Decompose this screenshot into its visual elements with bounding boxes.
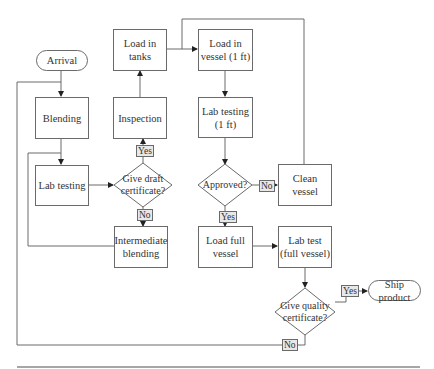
decision-give-quality-certificate: Give quality certificate? (279, 300, 331, 324)
decision-approved: Approved? (199, 179, 251, 191)
node-blending: Blending (35, 97, 89, 139)
node-intermediate-blending: Intermediate blending (114, 226, 168, 268)
decision-give-draft-certificate: Give draft certificate? (117, 173, 169, 197)
label-draft-yes: Yes (136, 145, 154, 157)
label-draft-no: No (137, 209, 153, 221)
node-arrival: Arrival (36, 50, 88, 71)
node-inspection: Inspection (113, 97, 167, 139)
label-quality-no: No (282, 339, 298, 351)
label-approved-no: No (259, 180, 275, 192)
node-lab-testing-1ft: Lab testing (1 ft) (198, 97, 253, 138)
node-lab-test-full-vessel: Lab test (full vessel) (278, 226, 332, 268)
node-ship-product: Ship product (368, 280, 421, 301)
node-lab-testing: Lab testing (35, 165, 89, 206)
node-load-full-vessel: Load full vessel (198, 226, 253, 268)
node-load-in-tanks: Load in tanks (113, 29, 167, 71)
node-load-in-vessel: Load in vessel (1 ft) (198, 29, 253, 71)
label-approved-yes: Yes (219, 211, 237, 223)
node-clean-vessel: Clean vessel (278, 164, 332, 206)
label-quality-yes: Yes (341, 285, 359, 297)
